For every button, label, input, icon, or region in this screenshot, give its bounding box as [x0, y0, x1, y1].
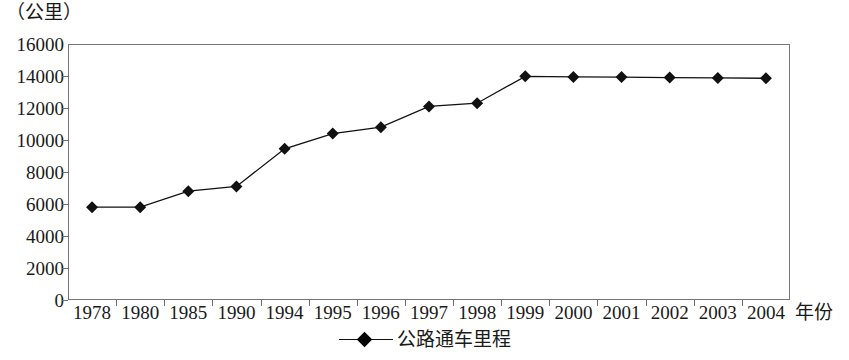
- x-axis-tick-label: 1990: [217, 303, 255, 323]
- x-axis-tick-mark: [261, 300, 262, 306]
- y-axis-tick-label: 14000: [2, 67, 64, 86]
- legend-entry: 公路通车里程: [339, 330, 511, 350]
- y-axis-tick-label: 4000: [2, 227, 64, 246]
- y-axis-tick-mark: [62, 300, 68, 301]
- x-axis-tick-label: 1998: [458, 303, 496, 323]
- y-axis: 0200040006000800010000120001400016000: [0, 0, 64, 360]
- x-axis-tick-label: 1994: [266, 303, 304, 323]
- x-axis-title: 年份: [795, 303, 833, 323]
- x-axis-tick-mark: [453, 300, 454, 306]
- x-axis-tick-mark: [309, 300, 310, 306]
- x-axis-tick-mark: [597, 300, 598, 306]
- x-axis-tick-label: 2003: [699, 303, 737, 323]
- y-axis-tick-label: 0: [2, 291, 64, 310]
- y-axis-tick-label: 8000: [2, 163, 64, 182]
- x-axis-tick-mark: [742, 300, 743, 306]
- x-axis-tick-mark: [694, 300, 695, 306]
- x-axis-tick-label: 1997: [410, 303, 448, 323]
- x-axis-tick-mark: [164, 300, 165, 306]
- x-axis-tick-label: 2000: [554, 303, 592, 323]
- x-axis-tick-label: 1978: [73, 303, 111, 323]
- x-axis-tick-label: 1985: [169, 303, 207, 323]
- line-chart: （公里） 02000400060008000100001200014000160…: [0, 0, 849, 360]
- x-axis-tick-mark: [405, 300, 406, 306]
- x-axis-tick-mark: [357, 300, 358, 306]
- x-axis-tick-label: 1999: [506, 303, 544, 323]
- y-axis-tick-label: 2000: [2, 259, 64, 278]
- y-axis-tick-mark: [62, 268, 68, 269]
- y-axis-tick-mark: [62, 108, 68, 109]
- x-axis-tick-mark: [212, 300, 213, 306]
- x-axis-tick-label: 2001: [603, 303, 641, 323]
- x-axis-tick-label: 2002: [651, 303, 689, 323]
- legend-diamond-marker-icon: [339, 332, 393, 348]
- y-axis-tick-label: 10000: [2, 131, 64, 150]
- legend-entry-label: 公路通车里程: [397, 330, 511, 350]
- x-axis-tick-mark: [116, 300, 117, 306]
- x-axis-tick-label: 1995: [314, 303, 352, 323]
- y-axis-tick-label: 12000: [2, 99, 64, 118]
- y-axis-tick-mark: [62, 76, 68, 77]
- x-axis-tick-label: 2004: [747, 303, 785, 323]
- plot-area: [68, 44, 790, 300]
- y-axis-tick-label: 16000: [2, 35, 64, 54]
- x-axis-tick-mark: [646, 300, 647, 306]
- y-axis-tick-mark: [62, 140, 68, 141]
- y-axis-tick-label: 6000: [2, 195, 64, 214]
- x-axis-tick-mark: [501, 300, 502, 306]
- y-axis-tick-mark: [62, 172, 68, 173]
- y-axis-tick-mark: [62, 204, 68, 205]
- legend: 公路通车里程: [0, 330, 849, 350]
- y-axis-tick-mark: [62, 236, 68, 237]
- x-axis-tick-label: 1980: [121, 303, 159, 323]
- x-axis-tick-label: 1996: [362, 303, 400, 323]
- x-axis-tick-mark: [549, 300, 550, 306]
